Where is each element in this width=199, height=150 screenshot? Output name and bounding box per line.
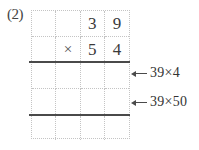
multiplier-tens-digit: 5 [81,37,105,63]
grid-cell [81,89,105,116]
grid-cell [105,89,129,116]
rule-line-under-partial-products [29,114,130,116]
rule-line-under-multiplier [29,61,130,63]
grid-cell [32,63,56,89]
annotation-label: 39×4 [150,65,180,81]
multiplication-worksheet: (2) 3 9 × 5 4 39×4 39×50 [0,0,199,150]
annotation-partial-product-2: 39×50 [131,95,187,109]
grid-cell [32,37,56,63]
multiplier-ones-digit: 4 [105,37,129,63]
grid-cell [81,116,105,140]
left-arrow-icon [131,70,147,77]
multiply-sign: × [56,37,80,63]
annotation-label: 39×50 [150,94,187,110]
multiplicand-tens-digit: 3 [81,11,105,37]
grid-cell [105,116,129,140]
grid-cell [56,63,80,89]
problem-number-label: (2) [7,6,23,23]
grid-cell [105,63,129,89]
grid-cell [81,63,105,89]
grid-cell [32,11,56,37]
grid-cell [56,89,80,116]
grid-cell [32,89,56,116]
grid-cell [56,116,80,140]
calculation-grid: 3 9 × 5 4 [31,10,130,139]
left-arrow-icon [131,99,147,106]
grid-cell [32,116,56,140]
grid-cell [56,11,80,37]
annotation-partial-product-1: 39×4 [131,66,180,80]
multiplicand-ones-digit: 9 [105,11,129,37]
